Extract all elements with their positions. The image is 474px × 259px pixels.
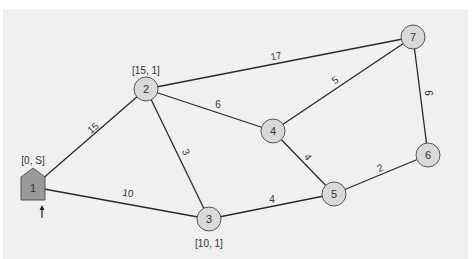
node-label: 1 — [30, 182, 36, 194]
node-7: 7 — [401, 25, 425, 49]
graph-diagram: 1510361754426 1234567 [0, S][15, 1][10, … — [0, 0, 474, 259]
edge-weight-label: 4 — [269, 194, 275, 205]
node-label: 7 — [410, 31, 416, 43]
node-label: 6 — [425, 149, 431, 161]
node-annotation: [10, 1] — [195, 238, 223, 249]
edge-weight-label: 15 — [85, 120, 101, 136]
node-3: 3 — [197, 207, 221, 231]
edge-2-4 — [146, 89, 273, 131]
node-label: 4 — [270, 125, 276, 137]
edge-weight-label: 6 — [423, 90, 434, 96]
node-label: 5 — [331, 188, 337, 200]
edge-5-6 — [334, 155, 428, 194]
node-4: 4 — [261, 119, 285, 143]
edge-1-3 — [33, 187, 209, 219]
node-annotation: [0, S] — [21, 155, 45, 166]
node-label: 3 — [206, 213, 212, 225]
edge-weight-label: 10 — [122, 187, 135, 200]
edge-1-2 — [33, 89, 146, 187]
nodes-layer: 1234567 — [21, 25, 440, 231]
node-annotation: [15, 1] — [132, 65, 160, 76]
node-label: 2 — [143, 83, 149, 95]
node-6: 6 — [416, 143, 440, 167]
arrow-head — [40, 205, 45, 210]
annotations-layer: [0, S][15, 1][10, 1] — [21, 65, 223, 249]
start-arrow-icon — [40, 205, 45, 218]
edge-weight-label: 3 — [180, 147, 193, 157]
node-5: 5 — [322, 182, 346, 206]
edge-weight-label: 4 — [302, 152, 314, 163]
edge-6-7 — [413, 37, 428, 155]
node-2: 2 — [134, 77, 158, 101]
edge-weight-label: 5 — [330, 74, 341, 86]
node-1: 1 — [21, 168, 45, 200]
edge-weight-label: 6 — [215, 99, 221, 110]
edge-2-7 — [146, 37, 413, 89]
edge-2-3 — [146, 89, 209, 219]
edge-weight-label: 2 — [375, 162, 385, 175]
edge-4-5 — [273, 131, 334, 194]
edge-weight-label: 17 — [270, 50, 283, 63]
